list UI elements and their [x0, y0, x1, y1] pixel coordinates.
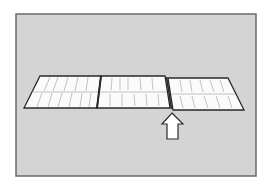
- diagram-canvas: [0, 0, 270, 190]
- diagram-figure: Three flat panels laid in a row in persp…: [0, 0, 270, 190]
- panel-middle: [97, 76, 170, 108]
